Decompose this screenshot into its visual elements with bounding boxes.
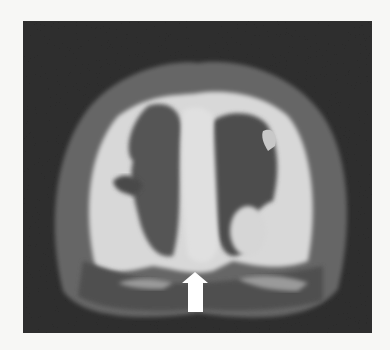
central-column — [182, 108, 218, 263]
medical-image-frame — [23, 21, 372, 333]
organ-rendering — [23, 21, 372, 333]
